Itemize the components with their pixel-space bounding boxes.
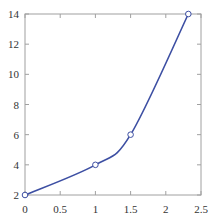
line-chart: 00.511.522.5 2468101214 xyxy=(0,0,211,224)
x-tick-label: 0 xyxy=(22,203,28,215)
y-tick-label: 14 xyxy=(8,8,20,20)
y-tick-label: 8 xyxy=(14,99,20,111)
data-point-marker xyxy=(22,192,28,198)
y-tick-label: 4 xyxy=(14,159,20,171)
data-point-marker xyxy=(128,132,134,138)
x-tick-label: 0.5 xyxy=(53,203,67,215)
x-tick-label: 2.5 xyxy=(194,203,208,215)
y-tick-label: 12 xyxy=(8,38,19,50)
y-tick-label: 10 xyxy=(8,68,20,80)
data-point-marker xyxy=(93,162,99,168)
data-point-marker xyxy=(186,11,192,17)
data-curve xyxy=(25,14,188,195)
data-markers xyxy=(22,11,191,198)
x-tick-label: 2 xyxy=(163,203,169,215)
x-tick-label: 1.5 xyxy=(124,203,138,215)
y-tick-label: 6 xyxy=(14,129,20,141)
x-tick-label: 1 xyxy=(93,203,99,215)
y-axis-ticks: 2468101214 xyxy=(8,8,201,201)
y-tick-label: 2 xyxy=(14,189,20,201)
plot-frame xyxy=(25,14,201,195)
